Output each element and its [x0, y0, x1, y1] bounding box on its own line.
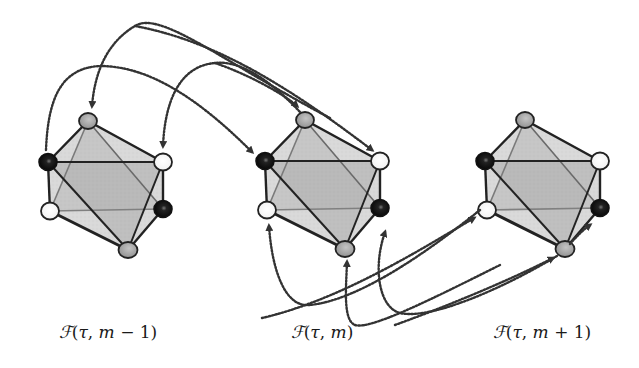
hexagon-sequence-diagram: [0, 0, 639, 368]
label-frame-m-minus-1: ℱ(τ, m − 1): [59, 322, 157, 342]
arrow-to-lower-left-m-plus-1: [262, 218, 474, 318]
label-frame-m-plus-1: ℱ(τ, m + 1): [493, 322, 591, 342]
label-frame-m: ℱ(τ, m): [291, 322, 354, 342]
frame-m-plus-1: [476, 112, 609, 257]
arrow-to-bottom-m-plus-1: [395, 258, 553, 325]
frame-m: [256, 112, 389, 257]
frame-m-minus-1: [39, 113, 172, 258]
arrow-to-top-m: [215, 63, 297, 106]
arrow-to-lower-right-m: [379, 232, 557, 314]
